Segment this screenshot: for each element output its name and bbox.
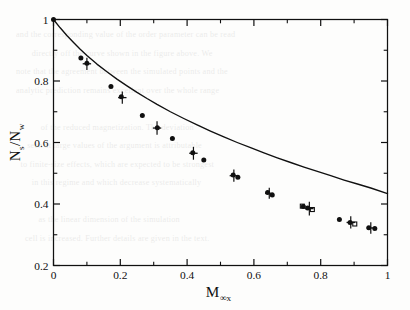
filled-circle-marker — [155, 125, 160, 130]
filled-circle-marker — [366, 225, 371, 230]
y-tick-label: 0.8 — [34, 75, 49, 87]
filled-circle-marker — [301, 204, 306, 209]
y-tick-label: 0.4 — [34, 198, 49, 210]
filled-circle-marker — [78, 55, 83, 60]
chart-svg: 00.20.40.60.810.20.40.60.81M∞xNs/Nw — [0, 0, 410, 310]
y-axis-title: Ns/Nw — [6, 123, 26, 161]
filled-circle-marker — [305, 205, 310, 210]
filled-circle-marker — [372, 226, 377, 231]
x-axis-title: M∞x — [206, 283, 232, 303]
filled-circle-marker — [201, 158, 206, 163]
filled-circle-marker — [270, 193, 275, 198]
x-tick-label: 1 — [385, 269, 391, 281]
filled-circle-marker — [84, 61, 89, 66]
filled-circle-marker — [140, 113, 145, 118]
plus-marker-group — [83, 58, 375, 234]
x-tick-label: 0.4 — [180, 269, 195, 281]
y-tick-label: 0.2 — [34, 260, 49, 272]
filled-circle-marker — [348, 220, 353, 225]
plot-frame — [54, 20, 388, 266]
filled-circle-marker — [265, 190, 270, 195]
y-tick-label: 1 — [43, 14, 49, 26]
x-tick-label: 0.6 — [247, 269, 262, 281]
chart-root: 00.20.40.60.810.20.40.60.81M∞xNs/Nw — [6, 14, 391, 303]
x-tick-label: 0.2 — [113, 269, 128, 281]
filled-circle-marker — [337, 217, 342, 222]
filled-circle-marker — [108, 84, 113, 89]
filled-circle-marker — [119, 94, 124, 99]
x-tick-label: 0 — [51, 269, 57, 281]
y-tick-label: 0.6 — [34, 137, 49, 149]
figure-panel: and the corresponding value of the order… — [0, 0, 410, 310]
filled-circle-group — [51, 17, 377, 231]
fit-curve — [54, 20, 388, 194]
x-tick-label: 0.8 — [314, 269, 329, 281]
filled-circle-marker — [235, 175, 240, 180]
filled-circle-marker — [51, 17, 56, 22]
filled-circle-marker — [170, 136, 175, 141]
filled-circle-marker — [190, 150, 195, 155]
filled-circle-marker — [231, 173, 236, 178]
